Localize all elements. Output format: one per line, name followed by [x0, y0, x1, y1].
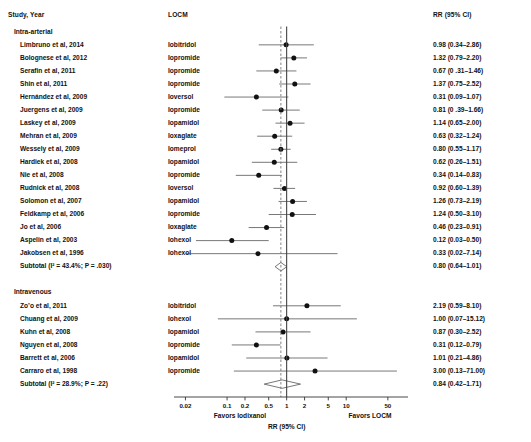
- table-row: Chuang et al, 2009Iohexol1.00 (0.07–15.1…: [0, 313, 531, 326]
- locm-agent: Iopromide: [168, 171, 200, 178]
- locm-agent: Iopromide: [168, 67, 200, 74]
- study-label: Hardiek et al, 2008: [20, 158, 78, 165]
- rr-ci-value: 1.37 (0.75–2.52): [433, 80, 481, 87]
- x-axis-tick-label: 0.2: [241, 402, 250, 409]
- locm-agent: Iohexol: [168, 236, 191, 243]
- x-axis-tick-label: 50: [384, 402, 391, 409]
- study-label: Feldkamp et al, 2006: [20, 210, 84, 217]
- study-label: Bolognese et al, 2012: [20, 54, 87, 61]
- locm-agent: Ioxaglate: [168, 132, 197, 139]
- table-row: Limbruno et al, 2014Iobitridol0.98 (0.34…: [0, 39, 531, 52]
- locm-agent: Iopamidol: [168, 328, 199, 335]
- study-label: Wessely et al, 2009: [20, 145, 80, 152]
- rr-ci-value: 1.32 (0.79–2.20): [433, 54, 481, 61]
- table-row: Serafin et al, 2011Iopromide0.67 (0 .31–…: [0, 65, 531, 78]
- locm-agent: Iobitridol: [168, 41, 196, 48]
- rr-ci-value: 0.12 (0.03–0.50): [433, 236, 481, 243]
- locm-agent: Ioxaglate: [168, 223, 197, 230]
- x-axis-tick-label: 0.5: [264, 402, 273, 409]
- locm-agent: Iopromide: [168, 80, 200, 87]
- x-axis-tick-label: 0.02: [179, 402, 191, 409]
- subtotal-label: Subtotal (I² = 28.9%; P = .22): [20, 380, 108, 387]
- rr-ci-value: 0.31 (0.09–1.07): [433, 93, 481, 100]
- subtotal-row: Subtotal (I² = 28.9%; P = .22)0.84 (0.42…: [0, 378, 531, 391]
- locm-agent: Iohexol: [168, 315, 191, 322]
- locm-agent: Ioversol: [168, 184, 193, 191]
- favors-locm-label: Favors LOCM: [349, 412, 392, 419]
- table-row: Solomon et al, 2007Iopamidol1.26 (0.73–2…: [0, 195, 531, 208]
- table-row: Wessely et al, 2009Iomeprol0.80 (0.55–1.…: [0, 143, 531, 156]
- x-axis-tick-label: 0.1: [223, 402, 232, 409]
- group-row: Intra-arterial: [0, 26, 531, 39]
- table-row: Barrett et al, 2006Iopamidol1.01 (0.21–4…: [0, 352, 531, 365]
- study-label: Shin et al, 2011: [20, 80, 67, 87]
- study-label: Chuang et al, 2009: [20, 315, 78, 322]
- rr-ci-value: 1.26 (0.73–2.19): [433, 197, 481, 204]
- x-axis-tick-label: 1: [285, 402, 288, 409]
- table-row: Shin et al, 2011Iopromide1.37 (0.75–2.52…: [0, 78, 531, 91]
- x-axis-tick-label: 5: [327, 402, 330, 409]
- table-row: Hardiek et al, 2008Iopamidol0.62 (0.26–1…: [0, 156, 531, 169]
- table-row: Jakobsen et al, 1996Iohexol0.33 (0.02–7.…: [0, 247, 531, 260]
- rr-ci-value: 0.92 (0.60–1.39): [433, 184, 481, 191]
- rr-ci-value: 3.00 (0.13–71.00): [433, 367, 485, 374]
- study-label: Jo et al, 2006: [20, 223, 61, 230]
- subtotal-label: Subtotal (I² = 43.4%; P = .030): [20, 262, 112, 269]
- study-label: Hernández et al, 2009: [20, 93, 87, 100]
- rr-ci-value: 0.67 (0 .31–1.46): [433, 67, 483, 74]
- rr-ci-value: 0.62 (0.26–1.51): [433, 158, 481, 165]
- locm-agent: Iopromide: [168, 106, 200, 113]
- rr-ci-value: 0.98 (0.34–2.86): [433, 41, 481, 48]
- rr-ci-value: 0.87 (0.30–2.52): [433, 328, 481, 335]
- table-row: Zo’o et al, 2011Iobitridol2.19 (0.59–8.1…: [0, 300, 531, 313]
- x-axis-title: RR (95% CI): [268, 423, 305, 430]
- locm-agent: Iomeprol: [168, 145, 196, 152]
- table-row: Carraro et al, 1998Iopromide3.00 (0.13–7…: [0, 365, 531, 378]
- table-row: Laskey et al, 2009Iopamidol1.14 (0.65–2.…: [0, 117, 531, 130]
- group-header-1: Intra-arterial: [14, 28, 52, 35]
- rr-ci-value: 0.80 (0.55–1.17): [433, 145, 481, 152]
- rr-ci-value: 1.14 (0.65–2.00): [433, 119, 481, 126]
- study-label: Kuhn et al, 2008: [20, 328, 70, 335]
- rr-ci-value: 1.01 (0.21–4.86): [433, 354, 481, 361]
- locm-agent: Iohexol: [168, 249, 191, 256]
- x-axis-tick-label: 10: [343, 402, 350, 409]
- group-row: Intravenous: [0, 286, 531, 299]
- table-row: Rudnick et al, 2008Ioversol0.92 (0.60–1.…: [0, 182, 531, 195]
- locm-agent: Iopromide: [168, 54, 200, 61]
- rr-ci-value: 0.34 (0.14–0.83): [433, 171, 481, 178]
- table-row: Kuhn et al, 2008Iopamidol0.87 (0.30–2.52…: [0, 326, 531, 339]
- study-label: Limbruno et al, 2014: [20, 41, 84, 48]
- locm-agent: Iopamidol: [168, 197, 199, 204]
- locm-agent: Iopamidol: [168, 354, 199, 361]
- locm-agent: Iopromide: [168, 367, 200, 374]
- study-label: Mehran et al, 2009: [20, 132, 77, 139]
- table-row: Aspelin et al, 2003Iohexol0.12 (0.03–0.5…: [0, 234, 531, 247]
- study-label: Zo’o et al, 2011: [20, 302, 67, 309]
- study-label: Laskey et al, 2009: [20, 119, 76, 126]
- locm-agent: Iopromide: [168, 210, 200, 217]
- column-header-rr: RR (95% CI): [433, 11, 471, 18]
- table-row: Feldkamp et al, 2006Iopromide1.24 (0.50–…: [0, 208, 531, 221]
- study-label: Serafin et al, 2011: [20, 67, 75, 74]
- study-label: Nie et al, 2008: [20, 171, 64, 178]
- column-header-locm: LOCM: [168, 11, 188, 18]
- study-label: Nguyen et al, 2008: [20, 341, 78, 348]
- locm-agent: Iopromide: [168, 341, 200, 348]
- locm-agent: Ioversol: [168, 93, 193, 100]
- locm-agent: Iobitridol: [168, 302, 196, 309]
- table-row: Mehran et al, 2009Ioxaglate0.63 (0.32–1.…: [0, 130, 531, 143]
- rr-ci-value: 1.24 (0.50–3.10): [433, 210, 481, 217]
- group-header-2: Intravenous: [14, 288, 51, 295]
- subtotal-row: Subtotal (I² = 43.4%; P = .030)0.80 (0.6…: [0, 260, 531, 273]
- rr-ci-value: 0.63 (0.32–1.24): [433, 132, 481, 139]
- rr-ci-value: 0.31 (0.12–0.79): [433, 341, 481, 348]
- rr-ci-value: 0.33 (0.02–7.14): [433, 249, 481, 256]
- locm-agent: Iopamidol: [168, 119, 199, 126]
- study-label: Jakobsen et al, 1996: [20, 249, 84, 256]
- study-label: Juergens et al, 2009: [20, 106, 83, 113]
- study-label: Solomon et al, 2007: [20, 197, 82, 204]
- rr-ci-value: 2.19 (0.59–8.10): [433, 302, 481, 309]
- x-axis-tick-label: 2: [303, 402, 306, 409]
- favors-iodixanol-label: Favors Iodixanol: [214, 412, 266, 419]
